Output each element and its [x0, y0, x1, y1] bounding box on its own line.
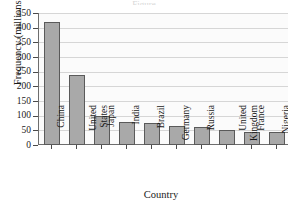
y-axis-tick-label: 450	[0, 9, 31, 18]
y-axis-tick-label: 150	[0, 97, 31, 106]
x-axis-tick	[101, 145, 102, 149]
gridline	[39, 13, 288, 14]
x-axis-tick-label: China	[56, 105, 68, 151]
y-axis-tick-label: 200	[0, 82, 31, 91]
x-axis-tick	[251, 145, 252, 149]
bar	[69, 75, 85, 145]
y-axis-tick	[33, 28, 38, 29]
chart-title-cropped: Figure	[0, 0, 288, 5]
y-axis-tick	[33, 130, 38, 131]
x-axis-tick	[176, 145, 177, 149]
y-axis-tick-label: 400	[0, 23, 31, 32]
x-axis-tick	[151, 145, 152, 149]
y-axis-tick	[33, 116, 38, 117]
y-axis-tick-label: 250	[0, 67, 31, 76]
x-axis-tick	[201, 145, 202, 149]
y-axis-tick-label: 350	[0, 38, 31, 47]
y-axis-tick	[33, 13, 38, 14]
y-axis-tick	[33, 145, 38, 146]
x-axis-tick-label: Brazil	[156, 105, 168, 151]
y-axis-tick-label: 0	[0, 141, 31, 150]
y-axis-tick-label: 300	[0, 53, 31, 62]
x-axis-tick	[76, 145, 77, 149]
x-axis-tick-label: Nigeria	[281, 105, 289, 151]
x-axis-tick-label: France	[256, 105, 268, 151]
y-axis-tick	[33, 72, 38, 73]
y-axis-tick	[33, 86, 38, 87]
y-axis-tick	[33, 101, 38, 102]
y-axis-tick	[33, 42, 38, 43]
x-axis-tick	[126, 145, 127, 149]
gridline	[39, 72, 288, 73]
y-axis-tick	[33, 57, 38, 58]
x-axis-tick	[276, 145, 277, 149]
x-axis-tick-label: Japan	[106, 105, 118, 151]
x-axis-tick	[226, 145, 227, 149]
x-axis-tick-label: Russia	[206, 105, 218, 151]
x-axis-tick	[51, 145, 52, 149]
bar	[219, 130, 235, 145]
gridline	[39, 57, 288, 58]
bar-chart-figure: Figure Frequency (millions) 050100150200…	[0, 0, 288, 204]
x-axis-tick-label: Germany	[181, 105, 193, 151]
y-axis-tick-label: 50	[0, 126, 31, 135]
y-axis-tick-label: 100	[0, 111, 31, 120]
x-axis-title: Country	[34, 189, 288, 201]
gridline	[39, 28, 288, 29]
x-axis-tick-label: India	[131, 105, 143, 151]
gridline	[39, 42, 288, 43]
